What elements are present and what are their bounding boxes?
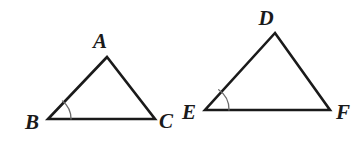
triangle-abc-group: A B C bbox=[24, 29, 174, 134]
vertex-label-e: E bbox=[181, 100, 196, 124]
geometry-figure: A B C D E F bbox=[0, 0, 360, 141]
vertex-label-c: C bbox=[159, 109, 174, 133]
triangle-abc bbox=[48, 57, 155, 119]
vertex-label-f: F bbox=[335, 100, 350, 124]
figure-canvas: A B C D E F bbox=[0, 0, 360, 141]
vertex-label-d: D bbox=[257, 6, 273, 30]
triangle-def-group: D E F bbox=[181, 6, 350, 124]
vertex-label-b: B bbox=[24, 110, 39, 134]
triangle-def bbox=[205, 33, 330, 110]
vertex-label-a: A bbox=[91, 29, 107, 53]
